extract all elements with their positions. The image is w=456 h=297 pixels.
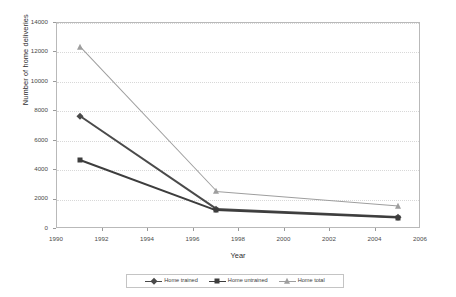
- y-tick-label: 0: [4, 225, 48, 231]
- x-tick-mark: [284, 228, 285, 231]
- home-deliveries-line-chart: 02000400060008000100001200014000 1990199…: [0, 0, 456, 297]
- x-tick-mark: [102, 228, 103, 231]
- legend-marker: [284, 278, 290, 284]
- x-tick-label: 1992: [82, 236, 122, 242]
- data-point-marker: [396, 215, 401, 220]
- legend-label: Home untrained: [228, 278, 268, 284]
- gridline: [57, 23, 419, 24]
- gridline: [57, 200, 419, 201]
- legend-item: Home untrained: [209, 278, 268, 285]
- legend-item: Home total: [279, 278, 325, 285]
- legend-swatch: [279, 278, 296, 285]
- x-tick-label: 1990: [36, 236, 76, 242]
- x-axis-title: Year: [56, 252, 420, 259]
- legend-swatch: [145, 278, 162, 285]
- y-axis-title: Number of home deliveries: [22, 0, 29, 130]
- x-tick-label: 2004: [355, 236, 395, 242]
- gridline: [57, 111, 419, 112]
- series-line-segment: [79, 116, 217, 211]
- x-tick-label: 1994: [127, 236, 167, 242]
- x-tick-mark: [375, 228, 376, 231]
- data-point-marker: [213, 188, 219, 194]
- gridline: [57, 82, 419, 83]
- legend-label: Home total: [298, 278, 325, 284]
- series-line-segment: [79, 159, 216, 211]
- data-point-marker: [77, 157, 82, 162]
- legend-item: Home trained: [145, 278, 198, 285]
- data-point-marker: [77, 44, 83, 50]
- x-tick-mark: [147, 228, 148, 231]
- chart-legend: Home trainedHome untrainedHome total: [126, 274, 344, 288]
- legend-marker: [215, 279, 220, 284]
- x-tick-mark: [329, 228, 330, 231]
- y-tick-label: 4000: [4, 166, 48, 172]
- data-point-marker: [214, 208, 219, 213]
- x-tick-label: 2002: [309, 236, 349, 242]
- y-tick-label: 6000: [4, 137, 48, 143]
- data-point-marker: [395, 203, 401, 209]
- legend-marker: [151, 278, 157, 284]
- gridline: [57, 52, 419, 53]
- x-tick-mark: [238, 228, 239, 231]
- x-tick-label: 1996: [173, 236, 213, 242]
- gridline: [57, 141, 419, 142]
- legend-swatch: [209, 278, 226, 285]
- x-tick-mark: [193, 228, 194, 231]
- legend-label: Home trained: [164, 278, 198, 284]
- x-tick-label: 1998: [218, 236, 258, 242]
- x-tick-label: 2000: [264, 236, 304, 242]
- plot-area: [56, 22, 420, 228]
- y-tick-label: 2000: [4, 195, 48, 201]
- x-tick-label: 2006: [400, 236, 440, 242]
- y-tick-mark: [53, 228, 56, 229]
